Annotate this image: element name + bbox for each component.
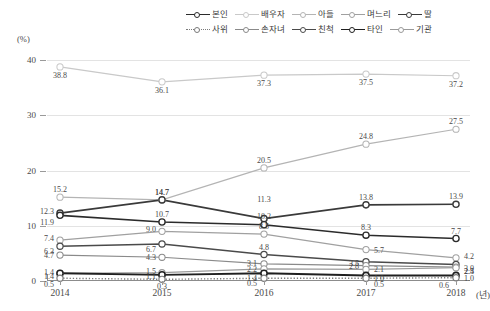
legend-label: 손자녀 — [261, 25, 285, 34]
data-point-marker[interactable] — [57, 194, 63, 200]
data-point-label: 8.5 — [259, 223, 269, 231]
data-point-label: 1.1 — [146, 273, 156, 281]
data-point-label: 7.4 — [44, 235, 54, 243]
y-axis-tick-label: 30 — [16, 110, 36, 120]
y-tick-mark — [40, 60, 46, 61]
legend-label: 며느리 — [367, 10, 391, 19]
data-point-label: 11.3 — [257, 196, 271, 204]
data-point-marker[interactable] — [453, 235, 459, 241]
legend-item-myeoneuri[interactable]: 며느리 — [341, 9, 391, 20]
data-point-label: 14.7 — [155, 189, 169, 197]
legend-item-bonin[interactable]: 본인 — [186, 9, 228, 20]
data-point-label: 2.1 — [374, 266, 384, 274]
x-axis-tick-label: 2018 — [436, 288, 476, 298]
legend-marker-icon — [186, 9, 210, 20]
data-point-marker[interactable] — [363, 202, 369, 208]
data-point-marker[interactable] — [159, 219, 165, 225]
data-point-label: 13.9 — [449, 193, 463, 201]
data-point-label: 9.0 — [146, 226, 156, 234]
legend-marker-icon — [398, 9, 422, 20]
data-point-marker[interactable] — [453, 255, 459, 261]
data-point-label: 36.1 — [155, 87, 169, 95]
legend-item-sonjanyeo[interactable]: 손자녀 — [235, 24, 285, 35]
data-point-marker[interactable] — [453, 265, 459, 271]
y-axis-tick-label: 40 — [16, 55, 36, 65]
x-axis-tick-label: 2016 — [244, 288, 284, 298]
series-line — [60, 278, 456, 280]
data-point-marker[interactable] — [261, 72, 267, 78]
legend-item-tain[interactable]: 타인 — [341, 24, 383, 35]
data-point-marker[interactable] — [453, 126, 459, 132]
legend-row-1: 본인 배우자 아들 며느리 딸 — [186, 7, 486, 22]
data-point-marker[interactable] — [363, 71, 369, 77]
data-point-label: 4.3 — [146, 254, 156, 262]
legend-marker-icon — [390, 24, 414, 35]
legend-item-ttal[interactable]: 딸 — [398, 9, 432, 20]
legend-item-baeuja[interactable]: 배우자 — [235, 9, 285, 20]
data-point-label: 37.3 — [257, 80, 271, 88]
data-point-label: 13.8 — [359, 194, 373, 202]
data-point-label: 10.7 — [155, 211, 169, 219]
legend-item-sawi[interactable]: 사위 — [186, 24, 228, 35]
data-point-marker[interactable] — [159, 241, 165, 247]
data-point-label: 2.8 — [349, 263, 359, 271]
legend-marker-icon — [186, 24, 210, 35]
data-point-label: 24.8 — [359, 133, 373, 141]
legend-marker-icon — [341, 24, 365, 35]
y-axis-unit: (%) — [17, 34, 30, 44]
y-tick-mark — [40, 115, 46, 116]
data-point-marker[interactable] — [159, 254, 165, 260]
data-point-marker[interactable] — [261, 165, 267, 171]
data-point-marker[interactable] — [57, 212, 63, 218]
legend-label: 타인 — [367, 25, 383, 34]
legend-row-2: 사위 손자녀 친척 타인 기관 — [186, 22, 486, 37]
legend-marker-icon — [235, 24, 259, 35]
x-tick-mark — [456, 281, 457, 285]
legend-item-chincheok[interactable]: 친척 — [292, 24, 334, 35]
chart-legend: 본인 배우자 아들 며느리 딸 사위 — [186, 7, 486, 37]
data-point-label: 7.7 — [451, 228, 461, 236]
y-axis-tick-label: 0 — [16, 276, 36, 286]
data-point-marker[interactable] — [363, 266, 369, 272]
x-axis-tick-label: 2015 — [142, 288, 182, 298]
data-point-marker[interactable] — [159, 79, 165, 85]
data-point-marker[interactable] — [261, 231, 267, 237]
legend-label: 사위 — [212, 25, 228, 34]
y-axis-tick-label: 20 — [16, 166, 36, 176]
legend-item-adeul[interactable]: 아들 — [292, 9, 334, 20]
data-point-marker[interactable] — [57, 252, 63, 258]
data-point-marker[interactable] — [453, 201, 459, 207]
data-point-marker[interactable] — [363, 246, 369, 252]
data-point-marker[interactable] — [57, 243, 63, 249]
data-point-marker[interactable] — [363, 232, 369, 238]
data-point-marker[interactable] — [453, 275, 459, 281]
data-point-label: 5.7 — [374, 247, 384, 255]
x-tick-mark — [60, 281, 61, 285]
legend-label: 아들 — [318, 10, 334, 19]
data-point-marker[interactable] — [453, 73, 459, 79]
legend-label: 친척 — [318, 25, 334, 34]
y-tick-mark — [40, 171, 46, 172]
data-point-marker[interactable] — [159, 228, 165, 234]
data-point-label: 12.3 — [40, 208, 54, 216]
data-point-label: 20.5 — [257, 157, 271, 165]
x-axis-unit: (년) — [476, 288, 490, 301]
legend-marker-icon — [292, 9, 316, 20]
y-axis-tick-label: 10 — [16, 221, 36, 231]
legend-item-gigwan[interactable]: 기관 — [390, 24, 432, 35]
data-point-marker[interactable] — [363, 141, 369, 147]
legend-label: 딸 — [424, 10, 432, 19]
legend-label: 본인 — [212, 10, 228, 19]
data-point-label: 1.0 — [464, 275, 474, 283]
series-line — [60, 244, 456, 264]
data-point-label: 15.2 — [53, 186, 67, 194]
data-point-marker[interactable] — [57, 64, 63, 70]
data-point-marker[interactable] — [57, 237, 63, 243]
x-tick-mark — [366, 281, 367, 285]
data-point-label: 2.2 — [247, 266, 257, 274]
data-point-label: 4.2 — [464, 253, 474, 261]
series-line — [60, 255, 456, 267]
data-point-marker[interactable] — [159, 197, 165, 203]
data-point-marker[interactable] — [261, 251, 267, 257]
